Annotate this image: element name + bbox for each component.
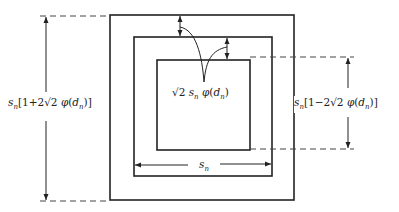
inner-dimension-label: sn[1−2√2 φ(dn)] (294, 96, 378, 113)
width-label: sn (199, 158, 209, 175)
gap-leader-curve (180, 27, 227, 82)
gap-label: √2 sn φ(dn) (172, 86, 229, 103)
middle-square (134, 37, 272, 176)
outer-dimension-label: sn[1+2√2 φ(dn)] (8, 96, 92, 113)
